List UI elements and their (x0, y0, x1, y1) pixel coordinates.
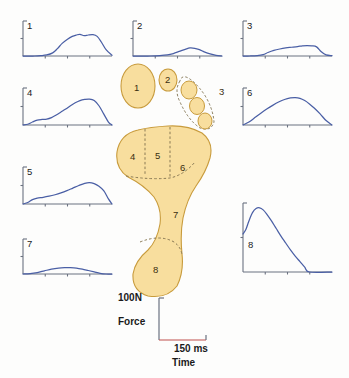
chart-label-4: 4 (27, 88, 32, 98)
foot-region-label-2: 2 (165, 75, 170, 85)
chart-label-7: 7 (27, 239, 32, 249)
scale-force-value: 100N (118, 293, 142, 303)
chart-panel-6: 6 (234, 85, 334, 131)
figure-root: 1 2 3 4 6 5 7 8 1 2 3 4 5 6 (0, 0, 349, 378)
force-curve-1 (23, 34, 112, 56)
chart-panel-4: 4 (14, 85, 114, 131)
chart-label-3: 3 (247, 21, 252, 31)
chart-panel-5: 5 (14, 164, 114, 210)
force-curve-5 (23, 183, 112, 204)
foot-region-label-5: 5 (155, 151, 160, 161)
chart-label-5: 5 (27, 167, 32, 177)
force-curve-2 (133, 48, 222, 56)
force-curve-3 (243, 46, 332, 57)
foot-region-label-1: 1 (134, 83, 139, 93)
foot-region-label-7: 7 (173, 210, 178, 220)
chart-label-8: 8 (248, 240, 253, 250)
chart-panel-8: 8 (234, 200, 334, 278)
chart-label-6: 6 (247, 88, 252, 98)
chart-label-1: 1 (27, 21, 32, 31)
force-curve-4 (23, 99, 112, 125)
chart-panel-3: 3 (234, 18, 334, 62)
chart-panel-2: 2 (124, 18, 224, 62)
scale-time-label: Time (172, 358, 195, 368)
foot-diagram: 1 2 3 4 5 6 7 8 (110, 58, 240, 298)
foot-region-label-4: 4 (130, 152, 135, 162)
chart-panel-7: 7 (14, 236, 114, 280)
scale-time-value: 150 ms (174, 344, 208, 354)
chart-panel-1: 1 (14, 18, 114, 62)
foot-region-label-3: 3 (219, 87, 224, 97)
force-curve-8 (243, 208, 332, 273)
foot-region-3-toe-c (198, 113, 212, 129)
force-curve-6 (243, 98, 332, 125)
scale-force-label: Force (118, 317, 145, 327)
force-curve-7 (23, 268, 112, 274)
chart-label-2: 2 (137, 21, 142, 31)
foot-region-label-6: 6 (180, 163, 185, 173)
scale-legend: 100N Force 150 ms Time (112, 292, 242, 374)
foot-region-3-toe-b (190, 98, 205, 115)
foot-region-3-toe-a (181, 81, 197, 99)
foot-region-label-8: 8 (153, 265, 158, 275)
